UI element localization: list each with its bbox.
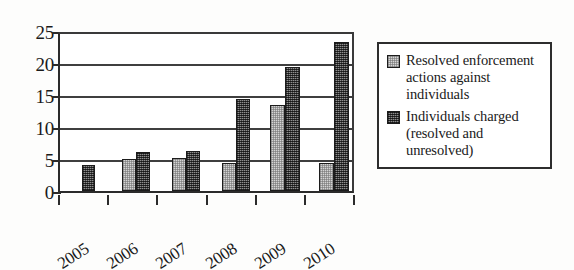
legend-swatch-dark-icon: [387, 111, 400, 124]
legend-line-1: Individuals charged: [406, 108, 519, 124]
legend-line-3: unresolved): [406, 142, 473, 158]
y-tick-label-5: 5: [14, 151, 54, 170]
gridline-5: [60, 160, 352, 162]
bar-2008-resolved-actions: [222, 163, 236, 191]
gridline-20: [60, 64, 352, 66]
x-tick-mark-0: [58, 195, 60, 205]
bar-chart-figure: 25 20 15 10 5 0: [0, 0, 574, 270]
bar-2010-resolved-actions: [319, 163, 334, 191]
gridline-15: [60, 96, 352, 98]
legend-entry-individuals-charged: Individuals charged (resolved and unreso…: [387, 108, 544, 159]
x-tick-label-2010: 2010: [301, 240, 338, 270]
x-tick-mark-2: [156, 195, 158, 205]
x-tick-label-2009: 2009: [252, 240, 289, 270]
y-axis: 25 20 15 10 5 0: [6, 0, 54, 270]
x-tick-label-2006: 2006: [104, 240, 141, 270]
bar-2006-resolved-actions: [122, 159, 136, 191]
legend-line-2: (resolved and: [406, 125, 483, 141]
x-tick-mark-4: [255, 195, 257, 205]
x-tick-mark-1: [107, 195, 109, 205]
x-tick-label-2005: 2005: [55, 240, 92, 270]
legend-label-resolved-actions: Resolved enforcement actions against ind…: [406, 52, 534, 103]
bar-2007-individuals-charged: [186, 151, 200, 191]
x-tick-mark-3: [206, 195, 208, 205]
bar-2006-individuals-charged: [136, 152, 150, 191]
x-tick-label-2008: 2008: [203, 240, 240, 270]
x-tick-mark-5: [304, 195, 306, 205]
y-tick-label-25: 25: [14, 23, 54, 42]
y-tick-label-10: 10: [14, 119, 54, 138]
y-tick-label-20: 20: [14, 55, 54, 74]
gridline-10: [60, 128, 352, 130]
legend-label-individuals-charged: Individuals charged (resolved and unreso…: [406, 108, 519, 159]
y-tick-label-15: 15: [14, 87, 54, 106]
chart-legend: Resolved enforcement actions against ind…: [377, 42, 552, 169]
bar-2008-individuals-charged: [236, 99, 250, 191]
legend-line-3: individuals: [406, 86, 469, 102]
legend-line-1: Resolved enforcement: [406, 52, 534, 68]
bar-2009-resolved-actions: [270, 105, 285, 191]
legend-line-2: actions against: [406, 69, 490, 85]
bar-2009-individuals-charged: [285, 67, 300, 191]
legend-entry-resolved-actions: Resolved enforcement actions against ind…: [387, 52, 544, 103]
plot-area: [58, 32, 354, 193]
bar-2010-individuals-charged: [334, 42, 349, 191]
y-tick-label-0: 0: [14, 183, 54, 202]
x-tick-mark-6: [353, 195, 355, 205]
bar-2005-individuals-charged: [82, 165, 95, 191]
legend-swatch-light-icon: [387, 55, 400, 68]
bar-2007-resolved-actions: [172, 158, 186, 191]
x-tick-label-2007: 2007: [153, 240, 190, 270]
